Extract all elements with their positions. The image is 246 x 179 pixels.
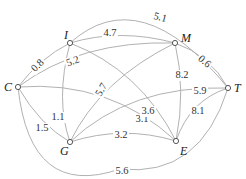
edge-weight-G-E: 3.2 <box>114 129 127 140</box>
node-label-E: E <box>179 144 188 158</box>
edges <box>18 20 228 176</box>
node-C <box>15 84 20 89</box>
node-label-T: T <box>234 81 242 95</box>
node-label-C: C <box>4 80 13 94</box>
node-label-I: I <box>63 28 69 42</box>
edge-weight-G-T: 5.9 <box>193 85 206 96</box>
edge-weight-I-G: 1.1 <box>51 111 64 122</box>
edge-I-M <box>70 36 175 44</box>
edge-weight-I-T: 5.1 <box>153 10 169 24</box>
node-E <box>173 138 178 143</box>
node-T <box>225 85 230 90</box>
weighted-graph: 0.85.23.11.55.64.75.13.61.10.68.25.75.93… <box>0 0 246 179</box>
node-label-G: G <box>60 144 69 158</box>
edge-M-E <box>175 43 181 141</box>
node-I <box>67 40 72 45</box>
edge-weight-C-G: 1.5 <box>35 122 48 133</box>
node-label-M: M <box>180 31 192 45</box>
node-M <box>172 40 177 45</box>
edge-weight-I-E: 3.6 <box>141 105 154 116</box>
edge-weight-C-T: 5.6 <box>115 165 128 176</box>
edge-weight-I-M: 4.7 <box>103 27 116 38</box>
edge-weight-T-E: 8.1 <box>191 105 204 116</box>
edge-weight-M-E: 8.2 <box>175 69 188 80</box>
